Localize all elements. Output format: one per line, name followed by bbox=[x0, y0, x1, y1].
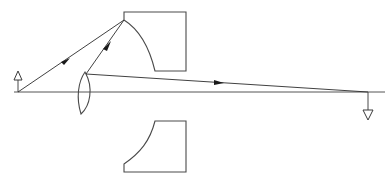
lens-body bbox=[78, 72, 90, 114]
object-arrow-head bbox=[14, 71, 22, 80]
ray-object-to-mirror-line bbox=[18, 20, 124, 92]
ray-lens-to-mirror bbox=[86, 20, 124, 74]
ray-diagram-canvas bbox=[0, 0, 392, 188]
ray-object-to-mirror bbox=[18, 20, 124, 92]
image-arrow bbox=[363, 92, 373, 120]
optics-ray-diagram bbox=[0, 0, 392, 188]
biconvex-lens bbox=[78, 72, 90, 114]
lower-mirror-body bbox=[124, 121, 186, 172]
object-arrow bbox=[14, 71, 22, 92]
image-arrow-head bbox=[363, 110, 373, 120]
ray-lens-to-image-line bbox=[86, 74, 368, 92]
ray-lens-to-image bbox=[86, 74, 368, 92]
upper-mirror-body bbox=[124, 12, 186, 71]
ray-object-to-mirror-arrowhead bbox=[61, 58, 70, 65]
ray-lens-to-mirror-arrowhead bbox=[103, 41, 111, 51]
concave-mirror-upper bbox=[124, 12, 186, 71]
concave-mirror-lower bbox=[124, 121, 186, 172]
